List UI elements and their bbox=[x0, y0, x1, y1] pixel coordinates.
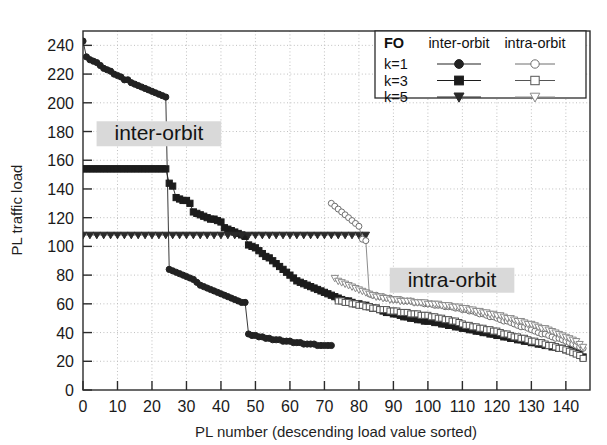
x-tick-label: 110 bbox=[450, 398, 476, 415]
x-tick-label: 0 bbox=[79, 398, 88, 415]
x-tick-label: 80 bbox=[350, 398, 368, 415]
legend-row-label-1: k=3 bbox=[384, 73, 408, 89]
x-tick-label: 50 bbox=[247, 398, 265, 415]
x-tick-label: 70 bbox=[316, 398, 334, 415]
x-axis-label: PL number (descending load value sorted) bbox=[195, 423, 477, 440]
x-tick-label: 90 bbox=[385, 398, 403, 415]
y-tick-label: 40 bbox=[56, 325, 74, 342]
x-tick-label: 100 bbox=[415, 398, 442, 415]
x-tick-label: 130 bbox=[518, 398, 545, 415]
y-tick-label: 140 bbox=[47, 181, 74, 198]
y-axis-label: PL traffic load bbox=[8, 165, 25, 256]
y-tick-label: 60 bbox=[56, 296, 74, 313]
legend-row-label-2: k=5 bbox=[384, 89, 408, 105]
y-tick-label: 220 bbox=[47, 66, 74, 83]
x-tick-label: 40 bbox=[212, 398, 230, 415]
y-tick-label: 240 bbox=[47, 37, 74, 54]
x-tick-label: 20 bbox=[143, 398, 161, 415]
legend-column-header-0: inter-orbit bbox=[428, 35, 489, 51]
x-tick-label: 120 bbox=[484, 398, 511, 415]
y-tick-label: 0 bbox=[65, 382, 74, 399]
y-tick-label: 160 bbox=[47, 152, 74, 169]
y-tick-label: 100 bbox=[47, 238, 74, 255]
y-tick-label: 200 bbox=[47, 95, 74, 112]
x-tick-label: 30 bbox=[178, 398, 196, 415]
x-tick-label: 140 bbox=[553, 398, 580, 415]
legend-column-header-1: intra-orbit bbox=[504, 35, 565, 51]
legend-row-label-0: k=1 bbox=[384, 56, 408, 72]
x-tick-label: 10 bbox=[109, 398, 127, 415]
annotation-label-0: inter-orbit bbox=[115, 121, 204, 144]
annotation-label-1: intra-orbit bbox=[408, 268, 497, 291]
chart-legend: FOinter-orbitintra-orbitk=1k=3k=5 bbox=[375, 31, 586, 105]
y-tick-label: 20 bbox=[56, 353, 74, 370]
y-tick-label: 180 bbox=[47, 124, 74, 141]
x-tick-label: 60 bbox=[281, 398, 299, 415]
x-tick-labels: 0102030405060708090100110120130140 bbox=[79, 398, 580, 415]
y-tick-label: 120 bbox=[47, 210, 74, 227]
legend-title: FO bbox=[384, 35, 404, 51]
y-tick-label: 80 bbox=[56, 267, 74, 284]
pl-traffic-load-chart: 0102030405060708090100110120130140 02040… bbox=[0, 0, 607, 445]
chart-container: 0102030405060708090100110120130140 02040… bbox=[0, 0, 607, 445]
